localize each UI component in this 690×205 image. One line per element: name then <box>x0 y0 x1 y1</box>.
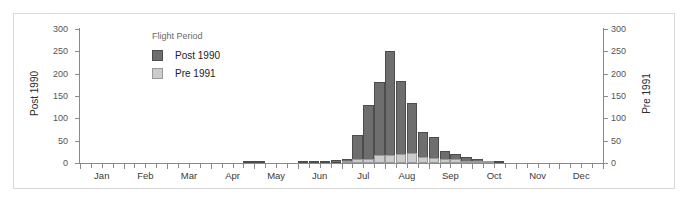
y-axis-right-tick-label: 150 <box>611 92 626 101</box>
y-axis-right-tick-label: 200 <box>611 70 626 79</box>
bar-segment-post-1990[interactable] <box>385 51 395 163</box>
x-axis-month-label: Feb <box>125 170 165 181</box>
bar-segment-post-1990[interactable] <box>298 161 308 163</box>
legend-label-pre-1991: Pre 1991 <box>175 68 216 79</box>
bar-stack[interactable] <box>461 157 471 163</box>
chart-legend: Flight Period Post 1990 Pre 1991 <box>152 31 220 86</box>
x-axis-tick <box>320 164 321 168</box>
x-axis-tick <box>494 164 495 168</box>
bar-segment-post-1990[interactable] <box>396 81 406 163</box>
y-axis-left-tick <box>75 74 79 75</box>
bar-stack[interactable] <box>418 132 428 163</box>
bar-stack[interactable] <box>483 162 493 163</box>
bar-stack[interactable] <box>352 135 362 163</box>
x-axis-tick <box>429 164 430 169</box>
legend-item-pre-1991: Pre 1991 <box>152 68 220 79</box>
bar-segment-pre-1991[interactable] <box>352 159 362 163</box>
bar-segment-post-1990[interactable] <box>254 161 264 163</box>
x-axis-tick <box>559 164 560 169</box>
x-axis-tick <box>145 164 146 168</box>
x-axis-tick <box>581 164 582 168</box>
x-axis-tick <box>200 164 201 168</box>
bar-stack[interactable] <box>254 162 264 163</box>
bar-segment-post-1990[interactable] <box>243 161 253 163</box>
bar-segment-post-1990[interactable] <box>331 160 341 163</box>
legend-swatch-post-1990-icon <box>152 50 163 61</box>
x-axis-tick <box>309 164 310 168</box>
x-axis-tick <box>603 164 604 169</box>
y-axis-right-tick <box>604 96 608 97</box>
bar-stack[interactable] <box>450 154 460 163</box>
x-axis-tick <box>396 164 397 168</box>
x-axis-month-label: Jan <box>82 170 122 181</box>
x-axis-tick <box>80 164 81 169</box>
bar-segment-pre-1991[interactable] <box>407 153 417 163</box>
legend-item-post-1990: Post 1990 <box>152 50 220 61</box>
x-axis-tick <box>189 164 190 168</box>
x-axis-tick <box>167 164 168 169</box>
bar-segment-pre-1991[interactable] <box>483 161 493 163</box>
bar-segment-pre-1991[interactable] <box>374 155 384 163</box>
bar-stack[interactable] <box>298 161 308 163</box>
x-axis-tick <box>592 164 593 168</box>
y-axis-left-tick-label: 250 <box>53 47 68 56</box>
bar-segment-pre-1991[interactable] <box>440 159 450 163</box>
x-axis-tick <box>385 164 386 169</box>
y-axis-right-tick-label: 300 <box>611 25 626 34</box>
x-axis-month-label: Jun <box>300 170 340 181</box>
x-axis-tick <box>298 164 299 169</box>
x-axis-tick <box>352 164 353 168</box>
bar-stack[interactable] <box>440 151 450 163</box>
y-axis-right-tick <box>604 51 608 52</box>
bar-segment-post-1990[interactable] <box>363 105 373 164</box>
bar-stack[interactable] <box>320 161 330 163</box>
x-axis-tick <box>505 164 506 168</box>
y-axis-left-tick <box>75 118 79 119</box>
bar-segment-post-1990[interactable] <box>320 161 330 163</box>
bar-stack[interactable] <box>331 160 341 163</box>
y-axis-left-tick-label: 100 <box>53 114 68 123</box>
x-axis-month-label: Oct <box>474 170 514 181</box>
x-axis-month-label: May <box>256 170 296 181</box>
bar-stack[interactable] <box>243 162 253 163</box>
bar-segment-pre-1991[interactable] <box>418 157 428 163</box>
legend-label-post-1990: Post 1990 <box>175 50 220 61</box>
y-axis-left-tick <box>75 29 79 30</box>
bar-segment-pre-1991[interactable] <box>342 161 352 163</box>
legend-title: Flight Period <box>152 31 220 41</box>
bar-segment-post-1990[interactable] <box>309 161 319 163</box>
bar-stack[interactable] <box>407 103 417 163</box>
y-axis-right-tick-label: 100 <box>611 114 626 123</box>
bar-stack[interactable] <box>472 159 482 163</box>
x-axis-tick <box>91 164 92 168</box>
bar-stack[interactable] <box>396 81 406 163</box>
x-axis-tick <box>254 164 255 169</box>
bar-segment-post-1990[interactable] <box>374 82 384 163</box>
bar-segment-pre-1991[interactable] <box>385 155 395 163</box>
bar-stack[interactable] <box>309 161 319 163</box>
y-axis-right-tick-label: 0 <box>611 159 616 168</box>
x-axis-tick <box>407 164 408 168</box>
bar-segment-pre-1991[interactable] <box>429 158 439 163</box>
bar-stack[interactable] <box>429 137 439 163</box>
x-axis-month-label: Mar <box>169 170 209 181</box>
bar-segment-pre-1991[interactable] <box>363 159 373 163</box>
bar-stack[interactable] <box>342 159 352 163</box>
bar-stack[interactable] <box>374 82 384 163</box>
x-axis-tick <box>156 164 157 168</box>
y-axis-left-tick-label: 300 <box>53 25 68 34</box>
x-axis-month-label: Aug <box>387 170 427 181</box>
bar-stack[interactable] <box>385 51 395 163</box>
y-axis-left-tick-label: 0 <box>63 159 68 168</box>
x-axis-tick <box>440 164 441 168</box>
bar-segment-pre-1991[interactable] <box>472 161 482 163</box>
bar-segment-post-1990[interactable] <box>494 161 504 163</box>
bar-stack[interactable] <box>363 105 373 164</box>
bar-segment-pre-1991[interactable] <box>450 159 460 163</box>
y-axis-left-tick <box>75 163 79 164</box>
bar-segment-pre-1991[interactable] <box>396 154 406 163</box>
bar-segment-pre-1991[interactable] <box>461 161 471 163</box>
x-axis-month-label: Sep <box>430 170 470 181</box>
x-axis-tick <box>102 164 103 168</box>
x-axis-month-label: Apr <box>213 170 253 181</box>
